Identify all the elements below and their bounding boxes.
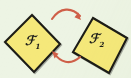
diagram-svg: ℱ 1 ℱ 2 <box>0 0 131 78</box>
figure-canvas: ℱ 1 ℱ 2 <box>0 0 131 78</box>
shape-f1-label-subscript: 1 <box>36 42 41 51</box>
shape-f2-label-subscript: 2 <box>99 40 105 49</box>
